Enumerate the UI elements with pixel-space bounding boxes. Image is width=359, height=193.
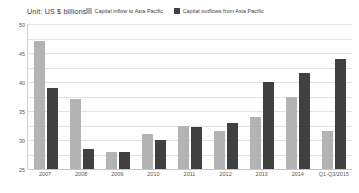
bar-group [208,24,244,169]
x-axis-tick-label: 2011 [171,171,207,185]
y-axis-tick-label: 40 [19,80,25,86]
bar-group [136,24,172,169]
bar-outflow [263,82,274,169]
bar-group [100,24,136,169]
bar-outflow [299,73,310,169]
bar-group [28,24,64,169]
bar-inflow [286,97,297,170]
y-axis-tick-label: 25 [19,167,25,173]
x-axis-tick-label: 2013 [244,171,280,185]
bar-outflow [335,59,346,169]
y-axis-tick-label: 35 [19,109,25,115]
bar-outflow [155,140,166,169]
bar-inflow [178,126,189,170]
x-axis-tick-label: 2008 [63,171,99,185]
x-axis-tick-label: 2014 [280,171,316,185]
bar-inflow [106,152,117,169]
legend-swatch-inflow-icon [86,8,92,14]
bar-outflow [83,149,94,169]
bar-group [172,24,208,169]
bar-inflow [70,99,81,169]
bar-group [316,24,352,169]
legend-entry-outflow: Capital outflows from Asia Pacific [174,8,264,14]
x-axis-tick-label: 2012 [208,171,244,185]
bar-chart: Unit: US $ billions Capital inflow to As… [0,0,359,193]
legend-label-outflow: Capital outflows from Asia Pacific [183,8,264,14]
plot-area: 50454035302520151050 [27,24,352,169]
legend-label-inflow: Capital inflow to Asia Pacific [95,8,164,14]
bar-inflow [34,41,45,169]
y-axis-tick-label: 30 [19,138,25,144]
y-axis-tick-label: 45 [19,51,25,57]
bar-group [280,24,316,169]
x-axis-tick-label: 2007 [27,171,63,185]
y-axis-tick-label: 50 [19,22,25,28]
bar-group [244,24,280,169]
bar-outflow [47,88,58,169]
x-axis-tick-label: 2009 [99,171,135,185]
bar-groups [28,24,352,169]
bar-outflow [191,127,202,169]
gridline: 0 [28,169,352,170]
legend-swatch-outflow-icon [174,8,180,14]
chart-header: Unit: US $ billions Capital inflow to As… [0,6,359,20]
bar-outflow [227,123,238,169]
bar-inflow [214,131,225,169]
x-axis-labels: 20072008200920102011201220132014Q1-Q3/20… [27,171,352,185]
bar-outflow [119,152,130,169]
bar-group [64,24,100,169]
bar-inflow [322,131,333,169]
x-axis-tick-label: Q1-Q3/2015 [316,171,352,185]
bar-inflow [250,117,261,169]
legend-entry-inflow: Capital inflow to Asia Pacific [86,8,163,14]
bar-inflow [142,134,153,169]
chart-unit-title: Unit: US $ billions [27,7,87,16]
x-axis-tick-label: 2010 [135,171,171,185]
chart-legend: Capital inflow to Asia Pacific Capital o… [86,8,264,14]
